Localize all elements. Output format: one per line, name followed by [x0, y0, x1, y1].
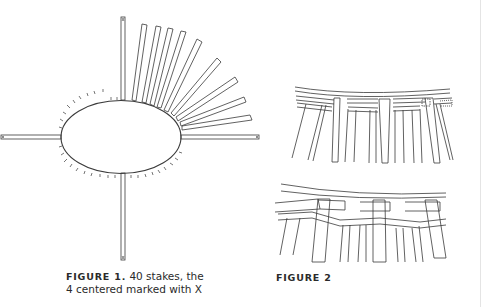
weave-detail-top — [292, 87, 453, 163]
figure-1-label: FIGURE 1. — [66, 271, 126, 282]
figure-1-caption-line2: 4 centered marked with X — [66, 283, 202, 295]
figure-2-illustration — [0, 0, 482, 265]
figure-2-caption: FIGURE 2 — [276, 271, 332, 284]
page-edge-divider — [480, 0, 481, 307]
figure-2-label: FIGURE 2 — [276, 272, 332, 283]
weave-detail-bottom — [275, 184, 446, 262]
figure-1-caption-line1: 40 stakes, the — [126, 270, 204, 282]
figure-1-caption: FIGURE 1. 40 stakes, the 4 centered mark… — [66, 270, 206, 296]
